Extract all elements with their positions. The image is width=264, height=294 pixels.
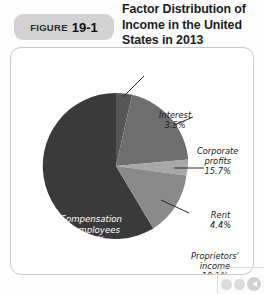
pie-label-corporate-profits-value: 15.7% [197,166,238,176]
figure-badge-word: FIGURE [30,22,68,33]
figure-title: Factor Distribution of Income in the Uni… [122,2,262,49]
figure-container: FIGURE 19-1 Factor Distribution of Incom… [0,0,264,294]
figure-badge-number: 19-1 [72,20,98,35]
pie-label-interest-name: Interest [159,110,191,120]
pie-label-proprietors-income: Proprietors' income 10.1% [191,251,239,275]
prev-button[interactable] [247,277,261,291]
pie-label-rent-value: 4.4% [210,220,231,230]
pie-label-proprietors-income-value: 10.1% [191,271,239,275]
pie-label-interest: Interest 3.5% [159,110,191,130]
pie-chart: Interest 3.5% Corporate profits 15.7% Re… [11,48,253,274]
pie-label-interest-value: 3.5% [159,120,191,130]
pie-label-compensation-name1: Compensation [39,214,143,225]
nav-dots-group [221,277,261,291]
pie-label-corporate-profits: Corporate profits 15.7% [197,146,238,177]
pie-label-compensation-value: 66.3% [39,235,143,246]
pie-label-proprietors-income-name2: income [191,261,239,271]
pie-label-rent: Rent 4.4% [210,210,231,230]
nav-dot-2[interactable] [234,279,245,290]
pie-label-corporate-profits-name2: profits [197,156,238,166]
pie-label-proprietors-income-name1: Proprietors' [191,251,239,261]
pie-label-compensation-name2: of employees [39,225,143,236]
pie-label-rent-name: Rent [210,210,231,220]
leader-line-interest [123,76,144,97]
pie-label-corporate-profits-name1: Corporate [197,146,238,156]
pie-label-compensation-of-employees: Compensation of employees 66.3% [39,214,143,246]
nav-dot-1[interactable] [221,279,232,290]
figure-frame: Interest 3.5% Corporate profits 15.7% Re… [10,47,254,275]
figure-header: FIGURE 19-1 Factor Distribution of Incom… [0,0,264,52]
chevron-left-icon [252,281,257,287]
figure-number-badge: FIGURE 19-1 [14,14,114,40]
